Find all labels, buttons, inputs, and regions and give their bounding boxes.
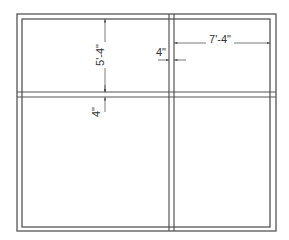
horizontal-mullion-dimension: 4" — [90, 85, 105, 117]
right-pane-width-label: 7'-4" — [209, 33, 231, 45]
vertical-mullion-label: 4" — [156, 46, 166, 58]
top-pane-height-dimension: 5'-4" — [93, 19, 107, 92]
outer-frame — [17, 14, 276, 231]
horizontal-mullion — [17, 92, 276, 97]
vertical-mullion-dimension: 4" — [156, 46, 186, 60]
horizontal-mullion-label: 4" — [90, 107, 102, 117]
right-pane-width-dimension: 7'-4" — [174, 33, 270, 48]
inner-frame — [22, 19, 270, 227]
top-pane-height-label: 5'-4" — [94, 44, 106, 66]
vertical-mullion — [169, 14, 174, 231]
window-elevation-diagram: 5'-4" 4" 7'-4" 4" — [0, 0, 289, 240]
